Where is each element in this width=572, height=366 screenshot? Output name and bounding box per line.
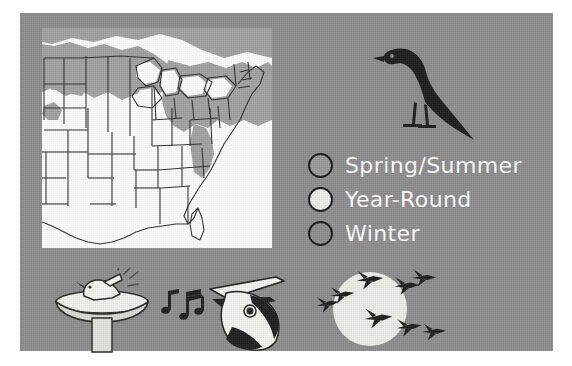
bird-head — [210, 277, 284, 350]
perched-bird-silhouette — [370, 30, 500, 142]
perched-bird-svg — [370, 30, 500, 142]
music-notes-icon — [161, 289, 204, 320]
bird-eye — [390, 54, 394, 58]
birdbath-svg — [50, 268, 154, 354]
legend-item-year-round: Year-Round — [308, 182, 548, 216]
legend-item-spring-summer: Spring/Summer — [308, 148, 548, 182]
migrating-geese-icon — [308, 265, 450, 357]
legend-label-year-round: Year-Round — [345, 187, 472, 212]
birdbath-bathing-icon — [50, 268, 154, 354]
legend: Spring/Summer Year-Round Winter — [308, 148, 548, 250]
illustration-panel: Spring/Summer Year-Round Winter — [20, 13, 553, 351]
legend-swatch-winter — [308, 221, 333, 246]
range-map-svg — [42, 28, 272, 248]
singing-bird-svg — [158, 275, 286, 355]
range-map — [42, 28, 272, 248]
legend-swatch-year-round — [308, 187, 333, 212]
legend-item-winter: Winter — [308, 216, 548, 250]
legend-swatch-spring-summer — [308, 153, 333, 178]
legend-label-winter: Winter — [345, 221, 420, 246]
legend-label-spring-summer: Spring/Summer — [345, 153, 522, 178]
screenshot-root: Spring/Summer Year-Round Winter — [0, 0, 572, 366]
singing-bird-icon — [158, 275, 286, 355]
migrating-geese-svg — [308, 265, 450, 357]
